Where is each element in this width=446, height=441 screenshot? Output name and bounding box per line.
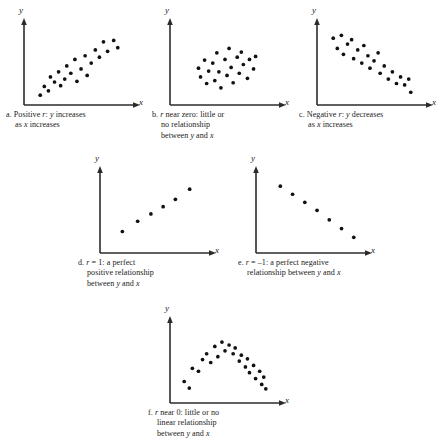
data-point — [229, 66, 233, 70]
data-point — [335, 47, 339, 51]
data-point — [340, 227, 344, 231]
data-point — [254, 377, 258, 381]
panel-e: y x e. r = –1: a perfect negativerelatio… — [238, 158, 393, 279]
data-point — [223, 58, 227, 62]
data-point — [188, 187, 192, 191]
panel-e-caption: e. r = –1: a perfect negativerelationshi… — [238, 258, 393, 279]
data-point — [262, 375, 266, 379]
data-point — [352, 57, 356, 61]
data-point — [223, 349, 227, 353]
data-point — [201, 358, 205, 362]
data-point — [248, 371, 252, 375]
data-point — [360, 61, 364, 65]
data-point — [246, 357, 250, 361]
data-point — [106, 50, 110, 54]
data-point — [303, 200, 307, 204]
data-point — [216, 355, 220, 359]
data-point — [73, 58, 77, 62]
data-point — [315, 208, 319, 212]
data-point — [220, 340, 224, 344]
data-point — [227, 47, 231, 51]
data-point — [352, 235, 356, 239]
data-point — [231, 352, 235, 356]
data-point — [346, 42, 350, 46]
data-point — [331, 36, 335, 40]
panel-e-axes — [253, 166, 372, 256]
data-point — [217, 70, 221, 74]
data-point — [356, 48, 360, 52]
panel-f-svg — [148, 308, 298, 408]
data-point — [242, 63, 246, 67]
data-point — [47, 89, 51, 93]
data-point — [205, 352, 209, 356]
data-point — [340, 33, 344, 37]
data-point — [182, 380, 186, 384]
caption-line: f. r near 0: little or no — [148, 408, 298, 418]
data-point — [264, 387, 268, 391]
panel-d: y x d. r = 1: a perfectpositive relation… — [78, 158, 228, 289]
data-point — [211, 61, 215, 65]
data-point — [75, 79, 79, 83]
caption-line: between y and x — [148, 429, 298, 439]
data-point — [59, 84, 63, 88]
panel-d-axes — [97, 166, 216, 256]
data-point — [382, 64, 386, 68]
panel-f-axes — [167, 316, 286, 406]
panel-e-y-axis-label: y — [251, 154, 255, 163]
panel-b: y x b. r near zero: little orno relation… — [152, 10, 292, 141]
panel-c-plot: y x — [299, 10, 439, 110]
data-point — [254, 55, 258, 59]
panel-d-y-axis-label: y — [95, 154, 99, 163]
panel-c-y-axis-label: y — [312, 6, 316, 15]
panel-e-plot: y x — [238, 158, 393, 258]
data-point — [57, 70, 61, 74]
data-point — [235, 55, 239, 59]
panel-f: y x f. r near 0: little or nolinear rela… — [148, 308, 298, 439]
caption-line: a. Positive r: y increases — [6, 110, 146, 120]
panel-f-dots — [182, 340, 267, 390]
data-point — [244, 365, 248, 369]
data-point — [42, 85, 46, 89]
panel-b-y-axis-label: y — [165, 6, 169, 15]
data-point — [252, 67, 256, 71]
data-point — [368, 66, 372, 70]
caption-line: b. r near zero: little or — [152, 110, 292, 120]
panel-c-axes — [314, 18, 433, 108]
caption-line: e. r = –1: a perfect negative — [238, 258, 393, 268]
data-point — [239, 50, 243, 54]
panel-c-caption: c. Negative r: y decreasesas x increases — [299, 110, 439, 131]
data-point — [161, 205, 165, 209]
panel-a-x-axis-label: x — [139, 98, 143, 107]
panel-c: y x c. Negative r: y decreasesas x incre… — [299, 10, 439, 131]
caption-line: d. r = 1: a perfect — [78, 258, 228, 268]
caption-line: between y and x — [78, 279, 228, 289]
data-point — [53, 80, 57, 84]
panel-a-caption: a. Positive r: y increasesas x increases — [6, 110, 146, 131]
panel-e-x-axis-label: x — [371, 246, 375, 255]
data-point — [136, 219, 140, 223]
data-point — [399, 75, 403, 79]
data-point — [197, 66, 201, 70]
panel-c-x-axis-label: x — [432, 98, 436, 107]
panel-a-y-axis-label: y — [19, 6, 23, 15]
panel-e-dots — [278, 184, 355, 239]
panel-a-dots — [38, 39, 119, 97]
data-point — [112, 39, 116, 43]
data-point — [227, 343, 231, 347]
caption-line: relationship between y and x — [238, 268, 393, 278]
data-point — [197, 369, 201, 373]
panel-f-plot: y x — [148, 308, 298, 408]
caption-line: positive relationship — [78, 268, 228, 278]
data-point — [38, 93, 42, 97]
panel-b-dots — [197, 47, 258, 90]
caption-line: c. Negative r: y decreases — [299, 110, 439, 120]
panel-f-x-axis-label: x — [285, 396, 289, 405]
panel-c-svg — [299, 10, 439, 110]
data-point — [403, 83, 407, 87]
panel-b-caption: b. r near zero: little orno relationship… — [152, 110, 292, 141]
panel-d-x-axis-label: x — [215, 246, 219, 255]
data-point — [327, 218, 331, 222]
data-point — [205, 82, 209, 86]
data-point — [199, 75, 203, 79]
data-point — [93, 48, 97, 52]
